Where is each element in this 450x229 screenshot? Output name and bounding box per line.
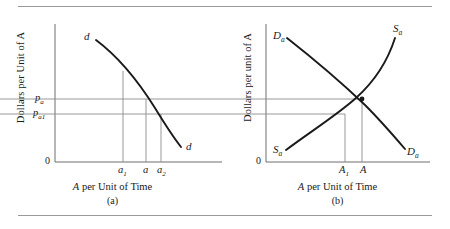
panel-b-plot: [225, 10, 450, 210]
panel-b-supply-label-top-sub: a: [399, 28, 403, 37]
panel-b-x-axis-label: A per Unit of Time: [225, 181, 450, 192]
panel-b-demand-curve: [287, 38, 405, 149]
panel-a-demand-label-top: d: [84, 30, 90, 42]
panel-a-ytick-pa1-sub: a1: [38, 113, 45, 121]
panel-b: Dollars per unit of A 0 A1 A Da Da Sa: [225, 10, 450, 210]
panel-b-demand-label-top-sub: a: [281, 35, 285, 44]
panel-b-supply-label-bottom-sub: a: [279, 149, 283, 158]
panel-a-xtick-a: a: [143, 164, 148, 178]
panel-b-equilibrium-point: [360, 97, 365, 102]
panel-a-caption: (a): [0, 195, 225, 206]
panel-b-supply-label-top: Sa: [393, 22, 402, 37]
panel-b-xtick-A: A: [360, 164, 366, 178]
panel-b-xtick-A-main: A: [360, 164, 366, 175]
panel-b-x-axis-label-rest: per Unit of Time: [304, 181, 377, 192]
panel-b-demand-label-bottom: Da: [407, 145, 419, 160]
panel-b-demand-label-top: Da: [273, 29, 285, 44]
panel-a-ytick-pa1: pa1: [33, 107, 45, 121]
panel-b-supply-label-bottom: Sa: [273, 143, 282, 158]
panel-a-xtick-a2-sub: 2: [162, 170, 166, 178]
panel-a: Dollars per Unit of A 0 pa pa1 a1 a a2 d…: [0, 10, 225, 210]
panel-b-xtick-A1: A1: [339, 164, 349, 178]
panel-a-ytick-pa-sub: a: [40, 98, 44, 106]
panel-a-x-axis-label-rest: per Unit of Time: [79, 181, 152, 192]
panel-a-xtick-a1-sub: 1: [123, 170, 127, 178]
panel-a-xtick-a2: a2: [157, 164, 166, 178]
panel-b-caption: (b): [225, 195, 450, 206]
panel-b-demand-label-bottom-sub: a: [415, 151, 419, 160]
panel-b-xtick-A1-sub: 1: [345, 170, 349, 178]
bottom-rule: [18, 215, 432, 216]
panel-a-xtick-a-main: a: [143, 164, 148, 175]
figure-container: Dollars per Unit of A 0 pa pa1 a1 a a2 d…: [0, 0, 450, 229]
panel-a-demand-label-bottom: d: [186, 140, 192, 152]
panel-a-demand-curve: [96, 40, 181, 147]
panel-b-origin-label: 0: [256, 155, 261, 166]
panel-b-demand-label-bottom-main: D: [407, 145, 415, 157]
panel-a-origin-label: 0: [45, 155, 50, 166]
panel-b-demand-label-top-main: D: [273, 29, 281, 41]
panel-a-ytick-pa: pa: [35, 92, 44, 106]
panel-a-xtick-a1: a1: [118, 164, 127, 178]
top-rule: [18, 6, 432, 7]
panel-a-x-axis-label: A per Unit of Time: [0, 181, 225, 192]
panel-b-supply-curve: [286, 38, 395, 150]
